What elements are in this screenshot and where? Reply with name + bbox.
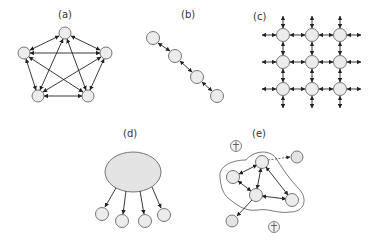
node xyxy=(18,47,30,59)
panel-a-label: (a) xyxy=(58,9,72,20)
panel-b: (b) xyxy=(147,9,224,103)
node xyxy=(32,90,44,102)
node xyxy=(306,29,319,42)
panel-e-label: (e) xyxy=(252,128,266,139)
panel-d: (d) xyxy=(96,128,171,228)
node xyxy=(306,56,319,69)
excluded-cross-icon xyxy=(269,222,280,233)
node xyxy=(100,47,112,59)
diagram-canvas: (a) (b) (c) xyxy=(0,0,381,241)
panel-e: (e) xyxy=(220,128,304,233)
outside-node xyxy=(291,151,303,163)
node xyxy=(256,156,269,169)
node xyxy=(139,215,152,228)
node xyxy=(306,83,319,96)
hub-node xyxy=(105,152,161,192)
panel-a: (a) xyxy=(18,9,112,102)
node xyxy=(277,83,290,96)
node xyxy=(169,50,182,63)
node xyxy=(334,56,347,69)
node xyxy=(250,189,263,202)
node xyxy=(286,194,299,207)
node xyxy=(334,83,347,96)
node xyxy=(334,29,347,42)
outside-node xyxy=(226,215,238,227)
node xyxy=(116,215,129,228)
panel-c: (c) xyxy=(253,11,361,108)
node xyxy=(158,209,171,222)
panel-a-edges xyxy=(26,36,104,96)
node xyxy=(277,29,290,42)
node xyxy=(59,27,71,39)
node xyxy=(277,56,290,69)
panel-d-label: (d) xyxy=(123,128,137,139)
node xyxy=(227,171,240,184)
node xyxy=(147,32,160,45)
excluded-cross-icon xyxy=(231,141,242,152)
node xyxy=(191,71,204,84)
panel-c-label: (c) xyxy=(253,11,266,22)
node xyxy=(82,90,94,102)
node xyxy=(96,208,109,221)
node xyxy=(211,90,224,103)
panel-b-label: (b) xyxy=(181,9,195,20)
